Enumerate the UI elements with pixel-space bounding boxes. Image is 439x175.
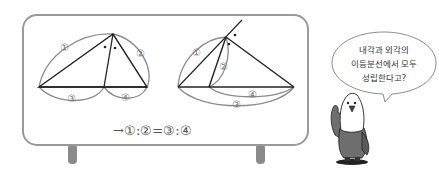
speech-bubble: 내각과 외각의 이등분선에서 모두 성립한다고?: [332, 32, 436, 102]
mascot-eye: [347, 102, 349, 104]
bubble-line-1: 내각과 외각의: [359, 45, 410, 55]
bubble-line-2: 이등분선에서 모두: [351, 59, 418, 69]
label-side-1: ①: [192, 47, 201, 58]
mascot-eye: [354, 102, 356, 104]
label-side-1: ①: [60, 42, 69, 53]
label-seg-3: ③: [232, 99, 241, 110]
mascot-foot: [345, 157, 350, 161]
label-side-2: ②: [136, 48, 145, 59]
mascot-head: [340, 93, 364, 132]
board-leg-right: [256, 144, 265, 164]
label-seg-4: ④: [121, 92, 130, 103]
label-seg-3: ③: [67, 93, 76, 104]
mascot-foot: [355, 157, 360, 161]
label-seg-4: ④: [248, 89, 257, 100]
label-side-2: ②: [219, 61, 228, 72]
angle-mark: [234, 34, 237, 37]
angle-mark: [114, 47, 117, 50]
diagram-scene: ① ② ③ ④ ① ② ④ ③ →①:②=③:④ 내각과 외각의 이등분선에서 …: [0, 0, 439, 175]
eagle-mascot: [331, 93, 369, 165]
ratio-formula: →①:②=③:④: [113, 123, 192, 138]
bubble-line-3: 성립한다고?: [362, 73, 407, 83]
angle-mark: [228, 43, 231, 46]
board-leg-left: [68, 144, 77, 164]
angle-mark: [104, 46, 107, 49]
mascot-shadow: [336, 159, 368, 165]
